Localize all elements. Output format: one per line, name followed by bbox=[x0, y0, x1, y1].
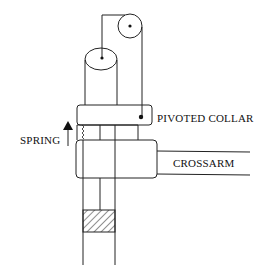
spring-coil bbox=[82, 125, 84, 139]
hatched-block bbox=[83, 210, 115, 232]
label-crossarm: CROSSARM bbox=[173, 157, 235, 169]
label-pivoted-collar: PIVOTED COLLAR bbox=[157, 112, 254, 124]
arrow-head-icon bbox=[63, 121, 73, 130]
crossarm-block bbox=[76, 140, 157, 178]
diagram-canvas: PIVOTED COLLAR SPRING CROSSARM bbox=[0, 0, 267, 269]
label-spring: SPRING bbox=[20, 134, 60, 146]
